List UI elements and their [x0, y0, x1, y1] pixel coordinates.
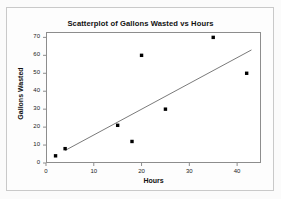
data-point [212, 36, 215, 39]
data-points [54, 36, 249, 158]
data-point [63, 147, 66, 150]
x-tick-label: 40 [225, 168, 249, 174]
x-tick-label: 20 [130, 168, 154, 174]
x-tick-label: 0 [34, 168, 58, 174]
data-point [164, 107, 167, 110]
y-tick-label: 0 [20, 159, 40, 165]
y-tick-label: 70 [20, 33, 40, 39]
data-point [245, 72, 248, 75]
trend-line [65, 50, 251, 150]
data-point [140, 54, 143, 57]
data-point [130, 140, 133, 143]
data-point [116, 124, 119, 127]
y-tick-label: 10 [20, 141, 40, 147]
data-point [54, 154, 57, 157]
y-axis-tick-marks [43, 37, 46, 163]
x-tick-label: 10 [82, 168, 106, 174]
chart-container: Scatterplot of Gallons Wasted vs Hours 0… [0, 0, 281, 199]
x-tick-label: 30 [177, 168, 201, 174]
x-axis-title: Hours [46, 177, 261, 184]
x-axis-tick-marks [46, 163, 237, 166]
y-axis-title: Gallons Wasted [17, 54, 24, 134]
